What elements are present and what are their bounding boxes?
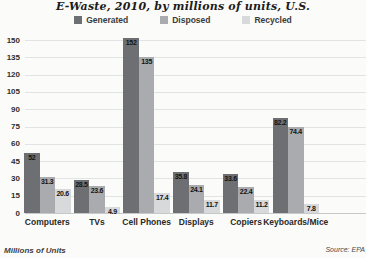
legend-label: Generated <box>86 15 128 25</box>
units-label: Millions of Units <box>4 246 66 255</box>
y-axis-tick-60: 60 <box>0 139 20 148</box>
bar-value-label: 4.9 <box>103 208 123 215</box>
source-label: Source: EPA <box>325 246 365 253</box>
bar-value-label: 23.6 <box>87 187 107 194</box>
gridline-90 <box>25 109 366 110</box>
bar-value-label: 24.1 <box>187 186 207 193</box>
bar-value-label: 135 <box>137 58 157 65</box>
y-axis-tick-120: 120 <box>0 70 20 79</box>
x-axis-label-5: Keyboards/Mice <box>261 217 331 227</box>
y-axis-tick-45: 45 <box>0 157 20 166</box>
legend-swatch-disposed <box>160 16 168 24</box>
gridline-105 <box>25 92 366 93</box>
gridline-135 <box>25 57 366 58</box>
y-axis-tick-15: 15 <box>0 191 20 200</box>
y-axis-tick-90: 90 <box>0 105 20 114</box>
legend-item-disposed: Disposed <box>160 15 210 25</box>
bar-value-label: 152 <box>121 39 141 46</box>
legend-item-generated: Generated <box>74 15 128 25</box>
bar-value-label: 11.7 <box>202 201 222 208</box>
legend-label: Recycled <box>254 15 291 25</box>
y-axis-tick-150: 150 <box>0 36 20 45</box>
chart-title: E-Waste, 2010, by millions of units, U.S… <box>0 0 366 13</box>
bar-value-label: 20.6 <box>53 190 73 197</box>
bar-value-label: 82.2 <box>271 119 291 126</box>
bar-disposed-2 <box>139 57 155 213</box>
bar-value-label: 35.8 <box>171 173 191 180</box>
legend-item-recycled: Recycled <box>242 15 291 25</box>
gridline-0 <box>25 213 366 214</box>
legend-label: Disposed <box>172 15 210 25</box>
bar-value-label: 17.4 <box>152 194 172 201</box>
y-axis-tick-135: 135 <box>0 53 20 62</box>
ewaste-bar-chart: E-Waste, 2010, by millions of units, U.S… <box>0 0 366 258</box>
y-axis-tick-30: 30 <box>0 174 20 183</box>
bar-value-label: 74.4 <box>286 128 306 135</box>
y-axis-tick-75: 75 <box>0 122 20 131</box>
legend-swatch-recycled <box>242 16 250 24</box>
gridline-60 <box>25 144 366 145</box>
legend-swatch-generated <box>74 16 82 24</box>
gridline-150 <box>25 40 366 41</box>
bar-value-label: 22.4 <box>236 188 256 195</box>
bar-value-label: 52 <box>22 154 42 161</box>
y-axis-tick-105: 105 <box>0 87 20 96</box>
bar-disposed-5 <box>288 127 304 213</box>
chart-legend: GeneratedDisposedRecycled <box>0 15 366 25</box>
bar-value-label: 33.6 <box>221 175 241 182</box>
bar-value-label: 7.8 <box>302 205 322 212</box>
gridline-75 <box>25 127 366 128</box>
bar-value-label: 11.2 <box>252 201 272 208</box>
gridline-45 <box>25 161 366 162</box>
gridline-120 <box>25 75 366 76</box>
bar-value-label: 31.3 <box>38 178 58 185</box>
